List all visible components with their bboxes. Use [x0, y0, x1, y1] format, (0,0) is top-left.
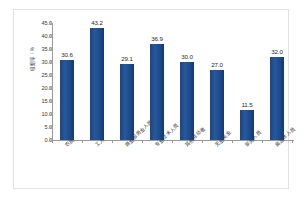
bar[interactable] [180, 62, 194, 140]
bar-value-label: 30.6 [61, 51, 73, 58]
bar[interactable] [90, 28, 104, 140]
bar-value-label: 43.2 [91, 19, 103, 26]
bar-value-label: 11.5 [241, 101, 252, 108]
x-axis-tick-mark [202, 140, 203, 143]
bar[interactable] [150, 44, 164, 140]
bar-value-label: 29.1 [121, 55, 133, 62]
bar-value-label: 32.0 [271, 48, 283, 55]
bar[interactable] [210, 70, 224, 140]
x-axis-tick-mark [52, 140, 53, 143]
bar[interactable] [120, 64, 134, 140]
x-axis-tick-mark [142, 140, 143, 143]
x-axis-line [52, 140, 294, 141]
x-axis-tick-mark [112, 140, 113, 143]
x-axis-tick-mark [292, 140, 293, 143]
x-axis-tick-mark [82, 140, 83, 143]
bar-value-label: 36.9 [151, 35, 163, 42]
x-axis-tick-mark [172, 140, 173, 143]
bar-value-label: 30.0 [181, 53, 193, 60]
bar-value-label: 27.0 [211, 61, 223, 68]
x-axis-tick-mark [262, 140, 263, 143]
chart-figure: 吸烟率 / % 45.040.035.030.025.020.015.010.0… [0, 0, 303, 204]
bar[interactable] [60, 60, 74, 140]
chart-frame: 吸烟率 / % 45.040.035.030.025.020.015.010.0… [13, 9, 289, 189]
bar[interactable] [270, 57, 284, 140]
x-axis-tick-mark [232, 140, 233, 143]
